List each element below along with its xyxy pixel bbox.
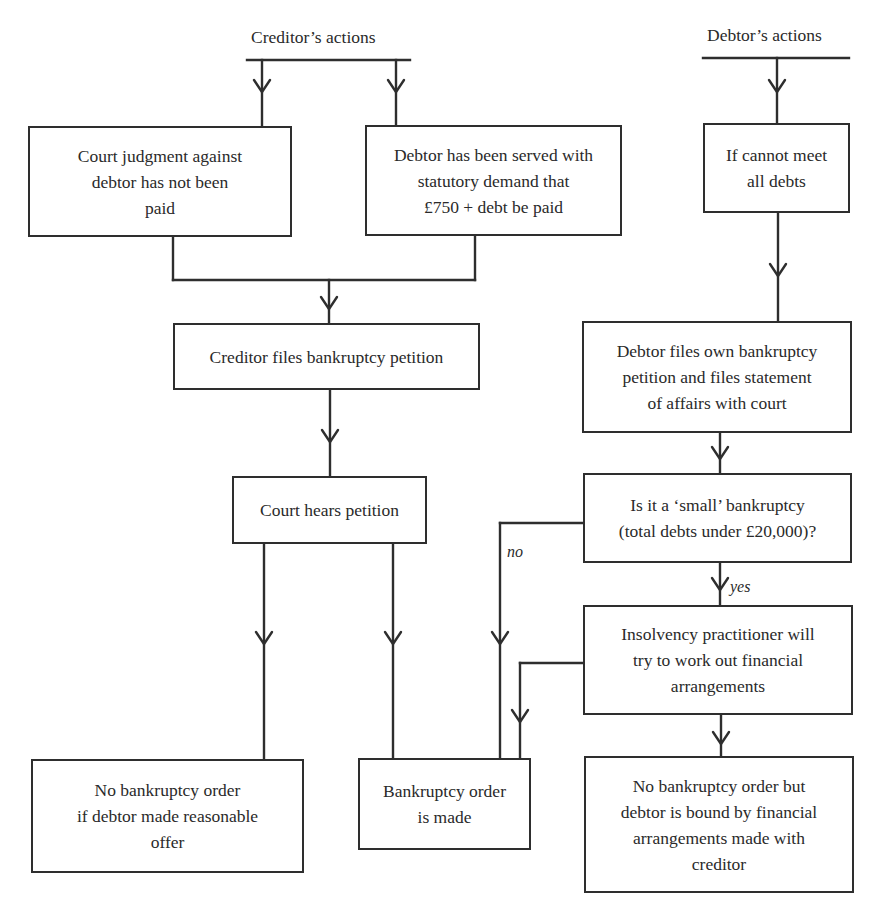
node-cannot-meet-debts-text: If cannot meet all debts xyxy=(726,142,827,194)
node-court-hears-petition-text: Court hears petition xyxy=(260,497,399,523)
node-bankruptcy-order-made-text: Bankruptcy order is made xyxy=(383,778,506,830)
node-court-hears-petition: Court hears petition xyxy=(232,476,427,544)
node-small-bankruptcy-decision-text: Is it a ‘small’ bankruptcy (total debts … xyxy=(619,492,816,544)
node-no-order-reasonable-offer-text: No bankruptcy order if debtor made reaso… xyxy=(77,777,258,855)
node-creditor-files-petition-text: Creditor files bankruptcy petition xyxy=(210,344,444,370)
creditor-actions-heading: Creditor’s actions xyxy=(251,27,376,48)
node-debtor-files-petition: Debtor files own bankruptcy petition and… xyxy=(582,321,852,433)
node-bankruptcy-order-made: Bankruptcy order is made xyxy=(358,758,531,850)
debtor-actions-heading: Debtor’s actions xyxy=(707,25,822,46)
bankruptcy-flowchart: Creditor’s actions Debtor’s actions Cour… xyxy=(0,0,877,911)
node-no-order-reasonable-offer: No bankruptcy order if debtor made reaso… xyxy=(31,759,304,873)
node-small-bankruptcy-decision: Is it a ‘small’ bankruptcy (total debts … xyxy=(583,473,852,563)
node-insolvency-practitioner-text: Insolvency practitioner will try to work… xyxy=(621,621,814,699)
node-statutory-demand-text: Debtor has been served with statutory de… xyxy=(394,142,593,220)
node-debtor-files-petition-text: Debtor files own bankruptcy petition and… xyxy=(617,338,818,416)
node-court-judgment: Court judgment against debtor has not be… xyxy=(28,126,292,237)
node-no-order-bound-by-arrangements-text: No bankruptcy order but debtor is bound … xyxy=(621,773,817,877)
node-insolvency-practitioner: Insolvency practitioner will try to work… xyxy=(583,605,853,715)
edge-label-yes: yes xyxy=(730,578,750,596)
edge-label-no: no xyxy=(507,543,523,561)
node-creditor-files-petition: Creditor files bankruptcy petition xyxy=(173,323,480,390)
node-statutory-demand: Debtor has been served with statutory de… xyxy=(365,125,622,236)
node-cannot-meet-debts: If cannot meet all debts xyxy=(703,123,850,213)
node-no-order-bound-by-arrangements: No bankruptcy order but debtor is bound … xyxy=(584,756,854,893)
node-court-judgment-text: Court judgment against debtor has not be… xyxy=(78,143,242,221)
